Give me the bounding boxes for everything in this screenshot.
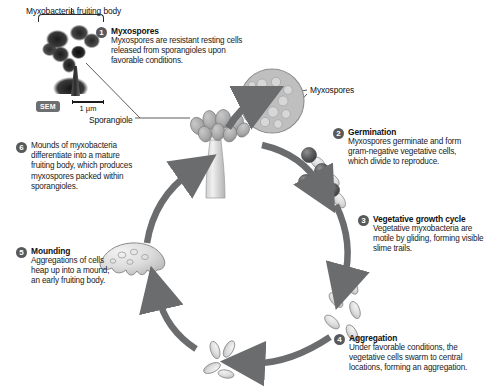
step-4-number: 4	[334, 334, 345, 345]
step-3-title: Vegetative growth cycle	[373, 214, 495, 224]
step-1-title: Myxospores	[111, 26, 244, 36]
step-2: 2 Germination Myxospores germinate and f…	[333, 127, 478, 168]
step-2-title: Germination	[348, 127, 478, 137]
cycle-arrow-growth	[336, 205, 348, 280]
step-5-number: 5	[16, 247, 27, 258]
step-6-number: 6	[16, 142, 27, 153]
step-1-body: Myxospores are resistant resting cells r…	[111, 36, 244, 67]
step-5-body: Aggregations of cells heap up into a mou…	[31, 256, 111, 287]
diagram-canvas: Myxobacteria fruiting body SEM 1 µm Spor…	[0, 0, 495, 389]
cycle-arrow-aggregation	[251, 337, 330, 363]
step-6: 6 Mounds of myxobacteria differentiate i…	[16, 141, 138, 192]
cycle-arrow-fruiting	[147, 172, 191, 243]
step-4: 4 Aggregation Under favorable conditions…	[334, 333, 494, 374]
step-3: 3 Vegetative growth cycle Vegetative myx…	[358, 214, 495, 255]
cycle-arrow-mounding	[158, 296, 196, 349]
step-6-body: Mounds of myxobacteria differentiate int…	[31, 141, 138, 192]
diagram-artwork	[0, 0, 495, 389]
step-1-number: 1	[96, 27, 107, 38]
aggregation-swarm	[202, 339, 249, 379]
step-2-number: 2	[333, 128, 344, 139]
step-3-body: Vegetative myxobacteria are motile by gl…	[373, 224, 495, 255]
step-3-number: 3	[358, 215, 369, 226]
step-4-title: Aggregation	[349, 333, 494, 343]
step-1: 1 Myxospores Myxospores are resistant re…	[96, 26, 244, 67]
central-fruiting-body	[188, 109, 253, 198]
leader-line-sporangiole	[86, 63, 190, 118]
step-5: 5 Mounding Aggregations of cells heap up…	[16, 246, 111, 287]
step-2-body: Myxospores germinate and form gram-negat…	[348, 137, 478, 168]
step-4-body: Under favorable conditions, the vegetati…	[349, 343, 494, 374]
step-5-title: Mounding	[31, 246, 111, 256]
